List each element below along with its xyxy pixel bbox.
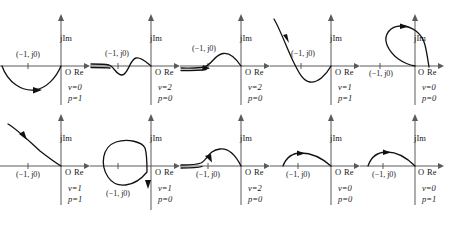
- nyquist-curve-group: [386, 24, 429, 68]
- imaginary-axis-arrow: [58, 114, 64, 121]
- imaginary-axis-label: jIm: [239, 133, 252, 143]
- nyquist-panel-6: jIm O Re (−1, j0) v=1 p=1: [0, 113, 90, 226]
- critical-point-label: (−1, j0): [372, 170, 396, 179]
- critical-point-label: (−1, j0): [192, 44, 216, 53]
- real-axis-label: Re: [344, 167, 354, 177]
- critical-point-label: (−1, j0): [16, 170, 40, 179]
- imaginary-axis-arrow: [412, 114, 418, 121]
- nyquist-panel-1: jIm O Re (−1, j0) v=0 p=1: [0, 5, 90, 118]
- curve-direction-arrow: [145, 180, 151, 189]
- curve-direction-arrow: [297, 151, 305, 157]
- nyquist-curve: [8, 124, 61, 166]
- v-label: v=2: [158, 82, 173, 92]
- imaginary-axis-arrow: [148, 14, 154, 21]
- nyquist-curve-return: [91, 68, 110, 69]
- origin-label: O: [418, 67, 424, 77]
- imaginary-axis-label: jIm: [413, 133, 426, 143]
- imaginary-axis-arrow: [148, 114, 154, 121]
- nyquist-curve: [283, 153, 331, 166]
- imaginary-axis-label: jIm: [413, 33, 426, 43]
- origin-label: O: [65, 67, 71, 77]
- origin-label: O: [245, 167, 251, 177]
- nyquist-panel-5: jIm O Re (−1, j0) v=0 p=0: [360, 5, 449, 118]
- real-axis-label: Re: [74, 167, 84, 177]
- imaginary-axis-arrow: [412, 14, 418, 21]
- nyquist-panel-9: jIm O Re (−1, j0) v=0 p=0: [270, 113, 360, 226]
- p-label: p=0: [157, 93, 173, 103]
- nyquist-curve-return: [181, 167, 202, 169]
- nyquist-curve: [103, 140, 147, 185]
- imaginary-axis-arrow: [238, 114, 244, 121]
- critical-point-label: (−1, j0): [106, 189, 130, 198]
- v-label: v=1: [338, 82, 352, 92]
- nyquist-panel-10: jIm O Re (−1, j0) v=0 p=1: [360, 113, 449, 226]
- real-axis-label: Re: [164, 67, 174, 77]
- real-axis-label: Re: [164, 167, 174, 177]
- imaginary-axis-arrow: [328, 14, 334, 21]
- p-label: p=0: [247, 93, 263, 103]
- nyquist-panel-7: jIm O Re (−1, j0) v=1 p=0: [90, 113, 180, 226]
- p-label: p=0: [247, 194, 263, 204]
- nyquist-curve-group: [181, 53, 241, 70]
- real-axis-label: Re: [254, 67, 264, 77]
- critical-point-label: (−1, j0): [16, 50, 40, 59]
- nyquist-curve-group: [181, 149, 241, 168]
- real-axis-label: Re: [427, 167, 437, 177]
- real-axis-label: Re: [344, 67, 354, 77]
- p-label: p=0: [421, 93, 437, 103]
- imaginary-axis-label: jIm: [149, 33, 162, 43]
- p-label: p=1: [67, 93, 82, 103]
- imaginary-axis-label: jIm: [239, 33, 252, 43]
- nyquist-curve-group: [103, 140, 151, 189]
- real-axis-label: Re: [254, 167, 264, 177]
- v-label: v=1: [68, 183, 82, 193]
- p-label: p=1: [421, 194, 436, 204]
- p-label: p=0: [337, 194, 353, 204]
- critical-point-label: (−1, j0): [369, 69, 393, 78]
- nyquist-curve: [2, 66, 61, 90]
- nyquist-panel-4: jIm O Re (−1, j0) v=1 p=1: [270, 5, 360, 118]
- origin-label: O: [335, 167, 341, 177]
- v-label: v=0: [422, 82, 437, 92]
- real-axis-arrow: [438, 163, 444, 169]
- nyquist-curve-group: [283, 151, 331, 167]
- imaginary-axis-label: jIm: [59, 33, 72, 43]
- nyquist-panel-3: jIm O Re (−1, j0) v=2 p=0: [180, 5, 270, 118]
- p-label: p=1: [337, 93, 352, 103]
- p-label: p=0: [157, 194, 173, 204]
- v-label: v=0: [68, 82, 83, 92]
- nyquist-panel-8: jIm O Re (−1, j0) v=2 p=0: [180, 113, 270, 226]
- nyquist-curve: [368, 152, 415, 166]
- origin-label: O: [418, 167, 424, 177]
- origin-label: O: [155, 167, 161, 177]
- curve-direction-arrow: [383, 150, 391, 156]
- critical-point-label: (−1, j0): [105, 49, 129, 58]
- imaginary-axis-label: jIm: [329, 133, 342, 143]
- p-label: p=1: [67, 194, 82, 204]
- real-axis-label: Re: [74, 67, 84, 77]
- nyquist-panel-2: jIm O Re (−1, j0) v=2 p=0: [90, 5, 180, 118]
- imaginary-axis-label: jIm: [329, 33, 342, 43]
- nyquist-curve-group: [8, 124, 61, 166]
- nyquist-curve-group: [368, 150, 415, 167]
- nyquist-plot-figure: jIm O Re (−1, j0) v=0 p=1 jIm O Re: [0, 0, 449, 226]
- critical-point-label: (−1, j0): [291, 49, 315, 58]
- critical-point-label: (−1, j0): [286, 170, 310, 179]
- real-axis-arrow: [438, 63, 444, 69]
- real-axis-label: Re: [427, 67, 437, 77]
- v-label: v=0: [338, 183, 353, 193]
- v-label: v=2: [248, 183, 263, 193]
- origin-label: O: [245, 67, 251, 77]
- v-label: v=0: [422, 183, 437, 193]
- imaginary-axis-arrow: [238, 14, 244, 21]
- curve-direction-arrow: [400, 24, 409, 30]
- origin-label: O: [65, 167, 71, 177]
- v-label: v=1: [158, 183, 172, 193]
- origin-label: O: [155, 67, 161, 77]
- imaginary-axis-arrow: [328, 114, 334, 121]
- nyquist-curve-group: [2, 66, 61, 94]
- imaginary-axis-arrow: [58, 14, 64, 21]
- imaginary-axis-label: jIm: [59, 133, 72, 143]
- critical-point-label: (−1, j0): [196, 170, 220, 179]
- origin-label: O: [335, 67, 341, 77]
